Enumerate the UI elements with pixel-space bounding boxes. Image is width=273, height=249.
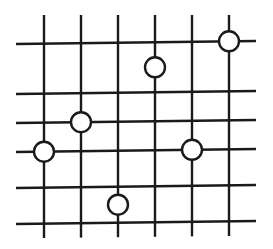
- circle-node: [182, 140, 202, 160]
- grid-diagram: [0, 0, 273, 249]
- circle-node: [145, 57, 165, 77]
- horizontal-line-6: [16, 221, 256, 224]
- circle-node: [219, 31, 239, 51]
- circle-node: [71, 112, 91, 132]
- horizontal-line-2: [16, 91, 256, 94]
- circle-node: [34, 142, 54, 162]
- horizontal-line-3: [16, 120, 256, 123]
- horizontal-lines: [16, 41, 256, 224]
- horizontal-line-5: [16, 185, 256, 188]
- circle-node: [108, 195, 128, 215]
